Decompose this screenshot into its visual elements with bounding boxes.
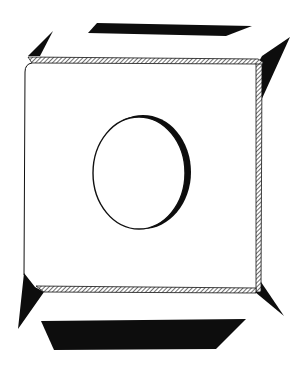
top-right-corner-shadow — [258, 37, 290, 103]
top-shadow-bar — [88, 23, 252, 36]
bottom-left-corner-shadow — [18, 273, 44, 329]
top-left-corner-shadow — [28, 31, 53, 56]
right-hatched-edge — [256, 64, 262, 292]
top-hatched-edge — [28, 57, 263, 66]
bottom-shadow-bar — [41, 319, 246, 350]
hole — [93, 117, 185, 229]
bottom-hatched-edge — [36, 286, 256, 293]
left-edge-outline — [24, 63, 32, 275]
square-with-hole-drawing — [0, 0, 308, 369]
